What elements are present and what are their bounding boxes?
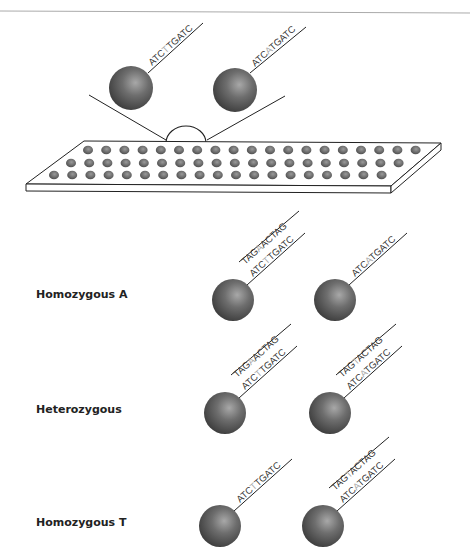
array-spot [230,159,240,168]
probe-seq-2: ATCATGATC [249,23,298,68]
genotype-bead: ATCTTGATCTAGAACTAG [212,211,305,321]
array-spot [301,146,311,155]
genotype-bead: ATCATGATCTAGTACTAG [309,324,402,434]
array-spot [138,146,148,155]
array-spot [49,171,59,180]
array-spot [122,171,132,180]
array-spot [139,159,149,168]
array-spot [338,146,348,155]
snp-array-diagram: ATCTTGATC ATCATGATC ATCTTGATCTAGAACTAGAT… [0,0,470,557]
array-spot [286,171,296,180]
array-spot [229,146,239,155]
array-spot [249,171,259,180]
array-spot [195,171,205,180]
array-spot [374,146,384,155]
array-spot [339,159,349,168]
array-spot [248,159,258,168]
array-spot [358,171,368,180]
array-spot [322,171,332,180]
microarray-slide [26,141,441,193]
array-spot [321,159,331,168]
array-spot [102,159,112,168]
array-spot [67,171,77,180]
array-spot [411,146,421,155]
top-rule [0,11,470,13]
array-spot [158,171,168,180]
array-spot [83,146,93,155]
array-spot [175,159,185,168]
array-spot [357,159,367,168]
genotype-bead: ATCATGATC [314,233,407,321]
array-spot [247,146,257,155]
array-spot [212,159,222,168]
array-spot [157,159,167,168]
array-spot [213,171,223,180]
array-spot [231,171,241,180]
array-spot [85,171,95,180]
array-spot [140,171,150,180]
svg-text:ATCATGATC: ATCATGATC [349,233,398,278]
genotype-label-homozygous-t: Homozygous T [36,516,127,529]
array-spot [193,159,203,168]
array-spot [174,146,184,155]
genotype-bead: ATCTTGATCTAGAACTAG [204,324,297,434]
array-spot [303,159,313,168]
array-spot [284,159,294,168]
array-spot [210,146,220,155]
array-spot [304,171,314,180]
array-spot [375,159,385,168]
array-spot [66,159,76,168]
top-bead-1: ATCTTGATC [109,22,203,110]
array-spot [356,146,366,155]
top-bead-2: ATCATGATC [213,23,306,112]
array-spot [340,171,350,180]
genotype-bead: ATCATGATCTAGTACTAG [302,437,395,547]
genotype-label-homozygous-a: Homozygous A [36,288,128,301]
array-spot [101,146,111,155]
array-spot [119,146,129,155]
array-spot [394,159,404,168]
array-spot [267,171,277,180]
array-spot [266,159,276,168]
array-spot [392,146,402,155]
array-spot [121,159,131,168]
array-spot [84,159,94,168]
array-spot [176,171,186,180]
array-spot [265,146,275,155]
genotype-bead: ATCTTGATC [199,459,292,547]
probe-seq-1: ATCTTGATC [146,22,195,67]
array-spot [104,171,114,180]
array-spot [377,171,387,180]
svg-text:ATCTTGATC: ATCTTGATC [234,459,283,504]
array-spot [156,146,166,155]
array-spot [320,146,330,155]
array-spot [283,146,293,155]
genotype-label-heterozygous: Heterozygous [36,403,122,416]
array-spot [192,146,202,155]
